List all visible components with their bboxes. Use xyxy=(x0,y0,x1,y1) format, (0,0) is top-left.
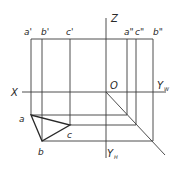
label-a: a xyxy=(19,114,25,124)
label-a-prime: a' xyxy=(24,27,32,37)
label-a-double-prime: a" xyxy=(124,27,134,37)
label-c-prime: c' xyxy=(66,27,73,37)
label-c-double-prime: c" xyxy=(135,27,144,37)
projection-diagram: a' b' c' a" c" b" a b c Z X O Y W Y H xyxy=(0,0,177,172)
label-yh-axis: Y xyxy=(107,148,114,159)
triangle-abc-top-view xyxy=(31,115,70,141)
45-degree-line xyxy=(106,92,165,155)
label-b-prime: b' xyxy=(41,27,49,37)
label-b: b xyxy=(38,147,44,157)
label-b-double-prime: b" xyxy=(153,27,163,37)
label-yw-axis: Y xyxy=(157,80,164,91)
label-z-axis: Z xyxy=(110,13,119,24)
label-yh-subscript: H xyxy=(114,154,118,160)
diagram-svg: a' b' c' a" c" b" a b c Z X O Y W Y H xyxy=(0,0,177,172)
label-origin: O xyxy=(110,80,118,91)
label-x-axis: X xyxy=(10,87,19,98)
label-yw-subscript: W xyxy=(164,86,170,92)
label-c: c xyxy=(67,130,72,140)
